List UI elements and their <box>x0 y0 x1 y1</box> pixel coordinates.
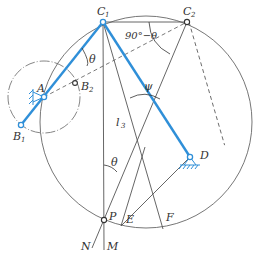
line-c1-m <box>103 22 104 250</box>
label-c2-sub: 2 <box>190 11 196 19</box>
label-c1-sub: 1 <box>105 11 109 19</box>
label-b1: B <box>12 130 21 143</box>
joint-a <box>41 94 46 99</box>
label-n: N <box>80 240 91 253</box>
label-b2-sub: 2 <box>88 86 94 94</box>
link-b1-c1 <box>21 22 103 125</box>
label-theta-bottom: θ <box>111 156 118 169</box>
label-b1-sub: 1 <box>21 136 25 144</box>
label-m: M <box>106 240 119 253</box>
psi-arc <box>130 94 160 99</box>
label-e: E <box>125 213 134 226</box>
label-d: D <box>199 149 209 162</box>
line-c1-f <box>103 22 163 229</box>
joint-b2 <box>73 81 78 86</box>
joint-c2 <box>184 19 189 24</box>
dashed-a-c2 <box>44 22 187 97</box>
label-psi: ψ <box>144 80 153 93</box>
joint-d <box>187 154 192 159</box>
label-90-theta: 90°−θ <box>125 30 157 41</box>
label-b2: B <box>80 80 89 93</box>
label-l3: l <box>116 116 120 129</box>
label-p: P <box>108 210 117 223</box>
point-p <box>101 217 106 222</box>
joint-c1 <box>100 19 105 24</box>
joint-b1 <box>18 122 23 127</box>
label-l3-sub: 3 <box>121 122 126 130</box>
label-theta-top: θ <box>89 53 96 66</box>
dashed-c2-d <box>189 20 225 146</box>
label-a: A <box>36 82 45 95</box>
design-circle <box>40 16 252 228</box>
mechanism-diagram: A B 1 B 2 C 1 C 2 D P E F M N θ θ ψ l 3 … <box>0 0 256 260</box>
label-f: F <box>165 211 174 224</box>
theta-arc-top <box>82 48 88 66</box>
